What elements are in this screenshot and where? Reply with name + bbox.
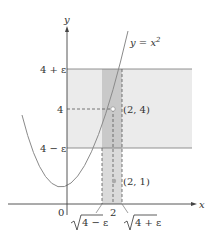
epsilon-delta-limit-diagram: y x 0 y = x2 4 + ε 4 4 − ε (2, 4) (2, 1)… bbox=[0, 0, 209, 237]
origin-label: 0 bbox=[58, 207, 64, 218]
y-tick-4-plus-epsilon: 4 + ε bbox=[40, 64, 66, 75]
filled-point-2-1 bbox=[112, 179, 116, 183]
y-axis-arrow-icon bbox=[65, 26, 69, 32]
x-tick-sqrt-4-plus-epsilon: 4 + ε bbox=[124, 215, 161, 230]
x-tick-2: 2 bbox=[110, 207, 116, 218]
leader-sqrt-4-minus-eps bbox=[96, 204, 102, 213]
y-tick-4: 4 bbox=[57, 104, 63, 115]
point-label-2-4: (2, 4) bbox=[123, 104, 150, 115]
delta-band-lower bbox=[102, 148, 122, 204]
open-point-2-4 bbox=[111, 107, 115, 111]
leader-sqrt-4-plus-eps bbox=[122, 204, 128, 213]
y-axis-label: y bbox=[63, 14, 70, 25]
x-axis-arrow-icon bbox=[191, 202, 197, 206]
x-tick-sqrt-4-minus-epsilon: 4 − ε bbox=[71, 215, 108, 230]
curve-label: y = x2 bbox=[129, 36, 161, 48]
x-axis-label: x bbox=[199, 199, 205, 210]
y-tick-4-minus-epsilon: 4 − ε bbox=[40, 143, 66, 154]
svg-text:4 + ε: 4 + ε bbox=[135, 217, 161, 228]
svg-text:4 − ε: 4 − ε bbox=[82, 217, 108, 228]
point-label-2-1: (2, 1) bbox=[123, 176, 150, 187]
